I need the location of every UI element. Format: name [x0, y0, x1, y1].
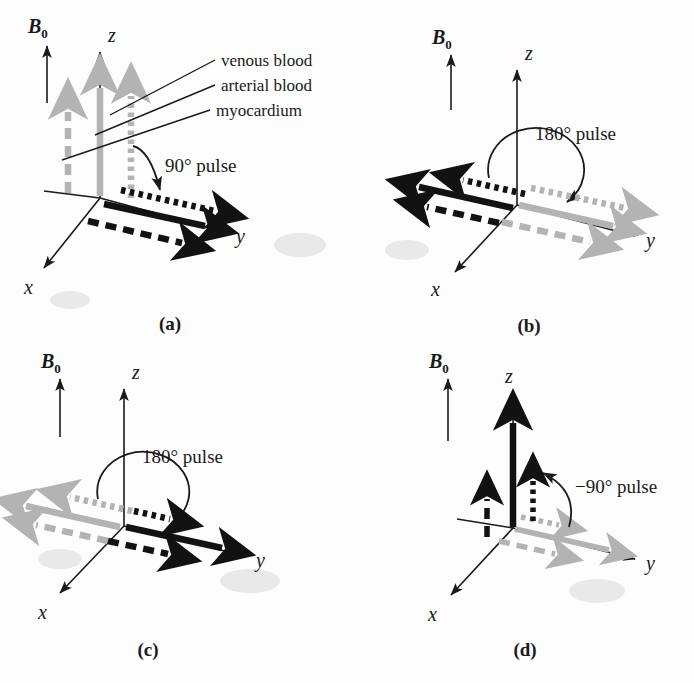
- vector-myocardium-y-black: [104, 204, 205, 226]
- vector-venous-y-black: [88, 221, 182, 243]
- z-axis-label: z: [131, 361, 140, 383]
- pulse-label: 180° pulse: [142, 446, 223, 467]
- scan-artifact: [569, 579, 625, 603]
- vector-arterial-y-gray: [521, 517, 559, 525]
- y-axis-label: y: [254, 549, 265, 572]
- vector-myocardium-ny-black: [419, 187, 513, 208]
- scan-artifact: [220, 569, 280, 593]
- panel-d: B0 z y x: [347, 341, 694, 682]
- pulse-label: 180° pulse: [535, 123, 616, 144]
- nmr-magnetization-figure: B0 z y x: [0, 0, 694, 683]
- vector-myocardium-ny-gray: [26, 506, 120, 527]
- x-axis: [451, 528, 513, 595]
- panel-caption-b: (b): [517, 315, 540, 337]
- vector-venous-y-gray: [499, 541, 555, 554]
- vector-arterial-y-black: [134, 511, 170, 519]
- vector-venous-y-gray: [502, 222, 590, 242]
- panel-c: B0 z y x 180° pulse: [0, 341, 347, 682]
- pulse-rotation-arc: [543, 473, 571, 527]
- scan-artifact: [50, 291, 90, 309]
- panel-caption-c: (c): [137, 639, 158, 661]
- panel-b: B0 z y x 180° pulse: [347, 0, 694, 341]
- label-arterial-blood: arterial blood: [221, 76, 313, 95]
- z-axis-label: z: [504, 365, 513, 387]
- z-axis-label: z: [107, 24, 116, 46]
- x-axis-label: x: [430, 278, 440, 300]
- y-axis-label: y: [644, 229, 655, 252]
- scan-artifact: [274, 233, 326, 257]
- b0-label: B0: [40, 350, 61, 376]
- x-axis: [44, 198, 100, 268]
- vector-myocardium-y-gray: [519, 205, 613, 226]
- panel-a: B0 z y x: [0, 0, 347, 341]
- vector-myocardium-y-black: [126, 527, 222, 548]
- vector-venous-ny-gray: [36, 525, 108, 541]
- vector-arterial-ny-gray: [70, 497, 132, 511]
- b0-label: B0: [428, 350, 449, 376]
- b0-label: B0: [431, 26, 452, 52]
- vector-venous-ny-black: [427, 207, 499, 223]
- scan-artifact: [385, 240, 429, 260]
- scan-artifact: [38, 549, 82, 569]
- z-axis-label: z: [524, 42, 533, 64]
- pulse-rotation-arc: [133, 146, 160, 190]
- x-axis: [455, 205, 517, 272]
- leader-line-arterial: [95, 85, 215, 135]
- x-axis-label: x: [427, 603, 437, 625]
- label-myocardium: myocardium: [216, 101, 302, 120]
- vector-myocardium-y-gray: [515, 529, 609, 550]
- vector-venous-y-black: [108, 541, 168, 554]
- panel-caption-a: (a): [159, 313, 181, 335]
- label-venous-blood: venous blood: [221, 51, 313, 70]
- y-axis-label: y: [644, 552, 655, 575]
- vector-arterial-ny-black: [463, 180, 525, 194]
- x-axis-label: x: [37, 601, 47, 623]
- panel-caption-d: (d): [513, 639, 536, 661]
- x-axis-label: x: [23, 276, 33, 298]
- y-axis-label: y: [234, 225, 245, 248]
- b0-label: B0: [27, 15, 48, 41]
- transverse-reference-line: [44, 191, 100, 198]
- pulse-label: −90° pulse: [575, 476, 657, 497]
- pulse-label: 90° pulse: [165, 155, 236, 176]
